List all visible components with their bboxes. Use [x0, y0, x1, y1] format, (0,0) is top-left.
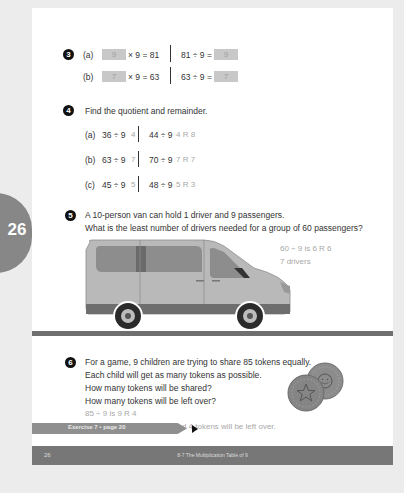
q3a-label: (a) [83, 50, 93, 60]
q3a-answer-box-left: 9 [102, 49, 126, 60]
divider [170, 67, 171, 84]
question-5-badge: 5 [65, 210, 76, 221]
question-4-badge: 4 [63, 105, 74, 116]
q4b-left-answer: 7 [131, 155, 135, 164]
q3b-equation-left: × 9 = 63 [128, 72, 159, 82]
q4b-right-expr: 70 ÷ 9 [149, 155, 173, 165]
q4-prompt: Find the quotient and remainder. [85, 106, 207, 116]
q4c-label: (c) [85, 180, 95, 190]
q3b-answer-box-left: 7 [102, 71, 126, 82]
q6-line-3: How many tokens will be shared? [85, 383, 212, 393]
page-footer: 26 8-7 The Multiplication Table of 9 [32, 446, 393, 465]
q4c-right-answer: 5 R 3 [176, 180, 195, 189]
q3a-equation-left: × 9 = 81 [128, 50, 159, 60]
q4c-right-expr: 48 ÷ 9 [149, 180, 173, 190]
divider [138, 176, 139, 192]
q3b-answer-box-right: 7 [214, 71, 238, 82]
q6-answer-1: 85 ÷ 9 is 9 R 4 [85, 409, 137, 418]
divider [138, 126, 139, 142]
side-page-number: 26 [2, 220, 32, 240]
van-illustration [84, 238, 294, 333]
q4c-left-expr: 45 ÷ 9 [102, 180, 126, 190]
road-line [32, 331, 393, 336]
divider [170, 45, 171, 62]
q6-line-1: For a game, 9 children are trying to sha… [85, 357, 311, 367]
arrow-right-icon [192, 425, 198, 433]
exercise-reference-tab[interactable]: Exercise 7 • page 20 [32, 423, 187, 434]
q3b-equation-right: 63 ÷ 9 = [181, 72, 212, 82]
q4a-right-expr: 44 ÷ 9 [149, 130, 173, 140]
q4a-left-expr: 36 ÷ 9 [102, 130, 126, 140]
q3a-equation-right: 81 ÷ 9 = [181, 50, 212, 60]
q4c-left-answer: 5 [131, 180, 135, 189]
footer-title: 8-7 The Multiplication Table of 9 [32, 452, 393, 458]
q4b-right-answer: 7 R 7 [176, 155, 195, 164]
q3b-label: (b) [83, 72, 93, 82]
q4a-right-answer: 4 R 8 [176, 130, 195, 139]
divider [138, 151, 139, 167]
q4a-label: (a) [85, 130, 95, 140]
q5-line-2: What is the least number of drivers need… [85, 223, 363, 233]
q6-line-4: How many tokens will be left over? [85, 396, 216, 406]
q4a-left-answer: 4 [131, 130, 135, 139]
q3a-answer-box-right: 9 [214, 49, 238, 60]
tokens-illustration [285, 360, 350, 415]
q5-line-1: A 10-person van can hold 1 driver and 9 … [85, 210, 284, 220]
q6-line-2: Each child will get as many tokens as po… [85, 370, 262, 380]
question-6-badge: 6 [65, 357, 76, 368]
q4b-label: (b) [85, 155, 95, 165]
q4b-left-expr: 63 ÷ 9 [102, 155, 126, 165]
question-3-badge: 3 [63, 49, 74, 60]
exercise-reference-label: Exercise 7 • page 20 [68, 424, 125, 430]
